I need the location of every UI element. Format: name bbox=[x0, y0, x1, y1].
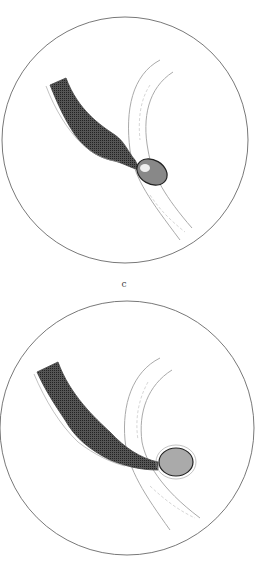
figure-c: c bbox=[0, 0, 258, 290]
field-circle bbox=[0, 301, 254, 555]
figure-c-drawing bbox=[0, 0, 258, 290]
field-circle bbox=[2, 17, 248, 263]
figure-d-drawing bbox=[0, 290, 258, 587]
figure-label: c bbox=[114, 279, 134, 289]
figure-d: d bbox=[0, 290, 258, 587]
